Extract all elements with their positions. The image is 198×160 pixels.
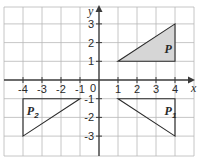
shape-label-subscript: 2 <box>33 111 39 120</box>
y-tick-label: -3 <box>84 130 94 142</box>
y-tick-label: 3 <box>88 18 94 30</box>
x-tick-label: -4 <box>18 83 28 95</box>
shape-label-subscript: 1 <box>172 111 177 120</box>
y-tick-label: -2 <box>84 111 94 123</box>
x-tick-label: 3 <box>153 83 159 95</box>
x-tick-label: 1 <box>115 83 121 95</box>
x-tick-label: -2 <box>56 83 66 95</box>
axes <box>4 5 195 156</box>
shape-label-p: P <box>165 42 173 56</box>
y-tick-label: -1 <box>84 93 94 105</box>
y-tick-label: 1 <box>88 55 94 67</box>
origin-label: 0 <box>90 82 96 94</box>
coordinate-plane: PP1P2 -4-3-2-11234321-1-2-30xy <box>0 0 198 160</box>
x-tick-label: 4 <box>172 83 178 95</box>
shape-label-p2: P2 <box>27 104 39 120</box>
x-axis-label: x <box>190 81 197 95</box>
coordinate-grid-diagram: PP1P2 -4-3-2-11234321-1-2-30xy <box>0 0 198 160</box>
x-tick-label: 2 <box>134 83 140 95</box>
x-tick-label: -3 <box>37 83 47 95</box>
y-tick-label: 2 <box>88 37 94 49</box>
y-axis-arrow-icon <box>96 5 103 12</box>
y-axis-label: y <box>87 4 94 18</box>
